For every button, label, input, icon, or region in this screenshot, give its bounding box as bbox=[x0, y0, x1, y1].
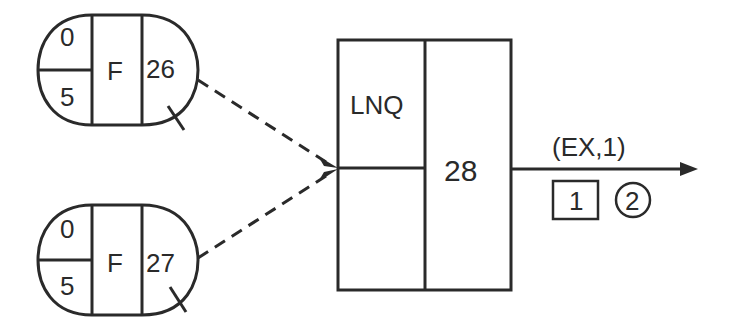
node-28-number: 28 bbox=[444, 156, 477, 186]
boxed-value: 1 bbox=[569, 188, 583, 214]
diagram-canvas bbox=[0, 0, 731, 335]
node-27-bottom-value: 5 bbox=[60, 273, 74, 299]
circled-value: 2 bbox=[625, 188, 639, 214]
node-26-type-label: F bbox=[107, 58, 123, 84]
node-26-bottom-value: 5 bbox=[60, 84, 74, 110]
node-27-top-value: 0 bbox=[60, 216, 74, 242]
dashed-edges bbox=[198, 80, 326, 258]
output-edge-label: (EX,1) bbox=[552, 134, 626, 160]
node-27-number: 27 bbox=[146, 250, 175, 276]
node-28-type-label: LNQ bbox=[350, 92, 403, 118]
node-26-top-value: 0 bbox=[60, 24, 74, 50]
arrowhead-icon bbox=[318, 156, 338, 168]
arrowhead-icon bbox=[680, 162, 698, 176]
target-node-28-shape bbox=[338, 40, 511, 290]
node-26-number: 26 bbox=[146, 56, 175, 82]
node-27-type-label: F bbox=[107, 250, 123, 276]
